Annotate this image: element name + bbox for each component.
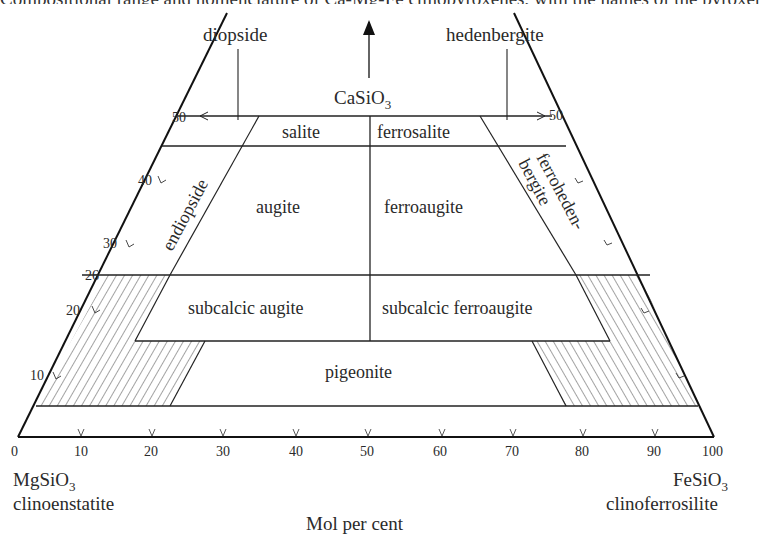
left-tick-50: 50 xyxy=(172,110,186,125)
left-tick-30: 30 xyxy=(103,236,117,251)
field-augite: augite xyxy=(256,197,300,217)
bottom-axis-title: Mol per cent xyxy=(306,513,404,534)
bottom-tick-0: 0 xyxy=(11,444,18,459)
bottom-tick-100: 100 xyxy=(702,444,723,459)
bottom-tick-50: 50 xyxy=(360,444,374,459)
bottom-tick-60: 60 xyxy=(433,444,447,459)
field-ferroaugite: ferroaugite xyxy=(384,197,463,217)
left-tick-26: 26 xyxy=(85,268,99,283)
field-salite: salite xyxy=(282,122,320,142)
left-tick-40: 40 xyxy=(138,173,152,188)
endmember-right-formula: FeSiO3 xyxy=(673,469,728,494)
bottom-tick-70: 70 xyxy=(505,444,519,459)
left-tick-20: 20 xyxy=(66,303,80,318)
up-arrow-icon xyxy=(363,20,375,78)
bottom-tick-30: 30 xyxy=(216,444,230,459)
field-pigeonite: pigeonite xyxy=(325,362,392,382)
endmember-left-name: clinoenstatite xyxy=(13,493,114,514)
diopside-label: diopside xyxy=(203,24,267,45)
field-ferrosalite: ferrosalite xyxy=(377,122,450,142)
apex-label: CaSiO3 xyxy=(334,87,391,112)
endmember-right-name: clinoferrosilite xyxy=(606,493,718,514)
pyroxene-quadrilateral-diagram: diopside hedenbergite CaSiO3 50 40 30 26… xyxy=(0,0,759,548)
bottom-tick-10: 10 xyxy=(74,444,88,459)
bottom-tick-20: 20 xyxy=(144,444,158,459)
right-tick-50: 50 xyxy=(549,108,563,123)
bottom-tick-90: 90 xyxy=(647,444,661,459)
bottom-axis-ticks xyxy=(78,429,658,436)
bottom-tick-80: 80 xyxy=(575,444,589,459)
endmember-left-formula: MgSiO3 xyxy=(13,469,75,494)
field-subcalcic-ferroaugite: subcalcic ferroaugite xyxy=(382,298,532,318)
field-subcalcic-augite: subcalcic augite xyxy=(188,298,303,318)
bottom-tick-40: 40 xyxy=(289,444,303,459)
left-tick-10: 10 xyxy=(30,368,44,383)
hedenbergite-label: hedenbergite xyxy=(446,24,544,45)
